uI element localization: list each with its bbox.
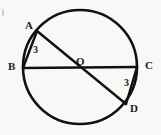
vertex-label-a: A — [25, 20, 33, 31]
geometry-figure: A B C D O 3 3 ) — [0, 0, 161, 135]
length-label-cd: 3 — [124, 78, 129, 88]
scan-artifact-mark: ) — [1, 8, 4, 17]
length-label-ab: 3 — [33, 45, 38, 55]
vertex-label-c: C — [145, 60, 153, 71]
vertex-label-d: D — [130, 103, 138, 114]
vertex-label-b: B — [8, 61, 15, 72]
center-label-o: O — [76, 56, 85, 67]
